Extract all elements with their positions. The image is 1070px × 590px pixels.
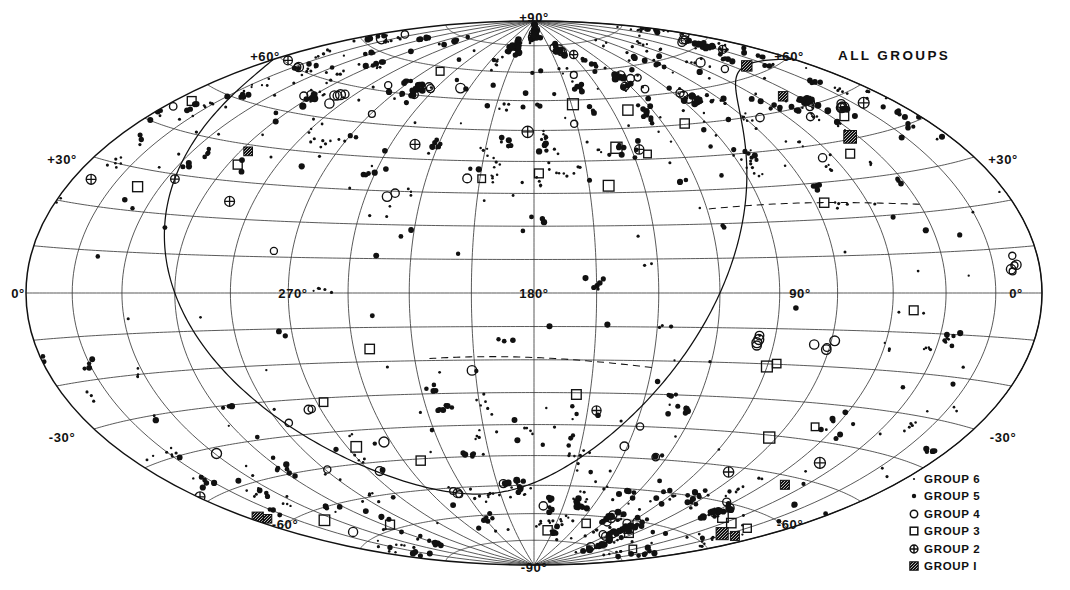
- group-marker: [620, 75, 627, 82]
- group-marker: [493, 166, 496, 169]
- group-marker: [562, 72, 564, 74]
- group-marker: [506, 137, 512, 143]
- group-marker: [362, 461, 365, 464]
- group-marker: [491, 83, 496, 88]
- group-marker: [433, 542, 438, 547]
- group-marker: [723, 56, 728, 61]
- group-marker: [605, 42, 607, 44]
- group-marker: [377, 500, 380, 503]
- legend-symbol: [905, 488, 922, 505]
- group-marker: [614, 531, 620, 537]
- group-marker: [630, 495, 636, 501]
- legend-item[interactable]: GROUP 2: [905, 540, 1055, 558]
- group-marker: [584, 505, 590, 511]
- legend-item[interactable]: GROUP I: [905, 558, 1055, 576]
- group-marker: [319, 146, 322, 149]
- group-marker: [487, 496, 489, 498]
- group-marker: [436, 144, 441, 149]
- group-marker: [950, 382, 955, 387]
- group-marker: [322, 94, 325, 97]
- group-marker: [491, 175, 494, 178]
- group-marker: [371, 492, 373, 494]
- group-marker: [638, 508, 641, 511]
- group-marker: [844, 131, 857, 144]
- group-marker: [708, 77, 711, 80]
- group-marker: [138, 132, 143, 137]
- group-marker: [684, 178, 689, 183]
- group-marker: [645, 517, 649, 521]
- group-marker: [273, 94, 276, 97]
- group-marker: [609, 469, 612, 472]
- group-marker: [591, 109, 595, 113]
- legend-item[interactable]: GROUP 4: [905, 505, 1055, 523]
- group-marker: [675, 404, 680, 409]
- group-marker: [604, 322, 610, 328]
- group-marker: [529, 42, 532, 45]
- group-marker: [905, 125, 911, 131]
- group-marker: [343, 55, 345, 57]
- group-marker: [780, 480, 789, 489]
- group-marker: [395, 544, 398, 547]
- group-marker: [265, 494, 270, 499]
- group-marker: [730, 531, 739, 540]
- group-marker: [602, 521, 605, 524]
- group-marker: [620, 419, 623, 422]
- group-marker: [553, 148, 556, 151]
- group-marker: [510, 337, 516, 343]
- group-marker: [570, 404, 575, 409]
- axis-tick-label: 0°: [11, 286, 25, 301]
- group-marker: [139, 137, 144, 142]
- group-marker: [473, 497, 476, 500]
- group-marker: [897, 112, 901, 116]
- group-marker: [579, 490, 581, 492]
- legend-item[interactable]: GROUP 3: [905, 523, 1055, 541]
- group-marker: [869, 161, 872, 164]
- group-marker: [471, 451, 476, 456]
- legend-symbol: [905, 523, 922, 540]
- group-marker: [642, 44, 645, 47]
- group-marker: [899, 134, 905, 140]
- group-marker: [885, 475, 888, 478]
- group-marker: [436, 522, 438, 524]
- group-marker: [866, 90, 869, 93]
- group-marker: [736, 488, 739, 491]
- group-marker: [275, 468, 280, 473]
- group-marker: [669, 404, 671, 406]
- group-marker: [211, 480, 217, 486]
- group-marker: [429, 451, 432, 454]
- group-marker: [318, 155, 321, 158]
- group-marker: [659, 116, 661, 118]
- group-marker: [592, 406, 601, 415]
- group-marker: [844, 251, 847, 254]
- group-marker: [602, 45, 605, 48]
- group-marker: [553, 44, 558, 49]
- group-marker: [371, 165, 373, 167]
- group-marker: [700, 545, 703, 548]
- group-marker: [306, 61, 312, 67]
- group-marker: [516, 483, 519, 486]
- group-marker: [535, 102, 539, 106]
- group-marker: [209, 102, 212, 105]
- filled-dot-icon: [906, 488, 922, 504]
- group-marker: [701, 127, 706, 132]
- group-marker: [565, 174, 568, 177]
- group-marker: [629, 67, 634, 72]
- group-marker: [516, 489, 522, 495]
- group-marker: [553, 531, 558, 536]
- legend-item[interactable]: GROUP 5: [905, 488, 1055, 506]
- axis-tick-label: 90°: [789, 286, 810, 301]
- group-marker: [490, 516, 494, 520]
- group-marker: [741, 116, 744, 119]
- group-marker: [147, 117, 153, 123]
- group-marker: [377, 545, 380, 548]
- group-marker: [668, 393, 674, 399]
- group-marker: [546, 509, 552, 515]
- group-marker: [741, 533, 743, 535]
- group-marker: [287, 470, 292, 475]
- legend-item[interactable]: GROUP 6: [905, 470, 1055, 488]
- group-marker: [834, 436, 839, 441]
- group-marker: [584, 500, 587, 503]
- group-marker: [186, 163, 192, 169]
- group-marker: [560, 523, 563, 526]
- group-marker: [638, 34, 641, 37]
